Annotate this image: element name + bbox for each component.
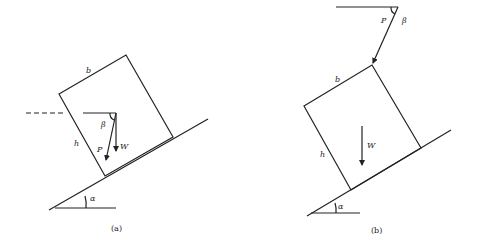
label-h: h <box>74 139 79 148</box>
label-alpha: α <box>90 194 96 203</box>
incline-plane <box>49 119 208 210</box>
caption-b: (b) <box>371 226 382 235</box>
label-beta: β <box>100 120 106 129</box>
label-h: h <box>320 150 325 159</box>
label-b: b <box>335 75 340 84</box>
label-alpha: α <box>338 202 344 211</box>
panel-b: b h P β W α (b) <box>304 7 451 235</box>
label-b: b <box>86 66 91 75</box>
caption-a: (a) <box>111 224 122 233</box>
alpha-arc <box>335 203 336 213</box>
label-w: W <box>120 142 129 151</box>
beta-arc <box>110 113 114 120</box>
block-on-incline-diagram: b h P W β α (a) b h P β W α (b) <box>0 0 477 242</box>
alpha-arc <box>85 196 86 208</box>
panel-a: b h P W β α (a) <box>26 55 208 233</box>
label-w-beta: β <box>401 16 407 25</box>
label-p: P <box>96 145 103 154</box>
beta-arc <box>391 7 395 14</box>
label-p: P <box>380 16 387 25</box>
label-w: W <box>367 141 376 150</box>
force-p-arrow <box>106 113 116 160</box>
